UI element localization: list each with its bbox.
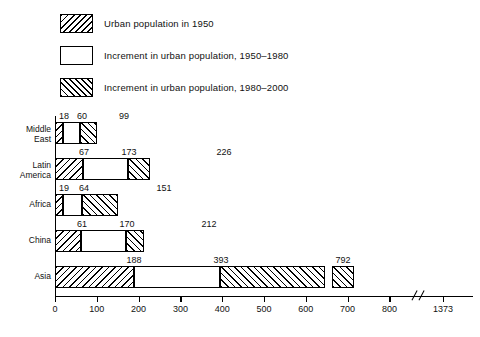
x-axis-tick (306, 296, 307, 302)
bar-row-china: China 61 170 212 (55, 230, 475, 252)
bar-row-label: Asia (5, 271, 51, 281)
x-axis-break-icon (410, 290, 434, 304)
x-axis-tick-label: 1373 (433, 304, 453, 314)
bar-segment-increment-1980-2000 (220, 266, 325, 288)
x-axis-tick-label: 100 (89, 304, 104, 314)
bar-segment-increment-1950-1980 (83, 158, 128, 180)
chart-figure: Urban population in 1950 Increment in ur… (0, 0, 480, 337)
bar-row-label: Africa (5, 199, 51, 209)
x-axis-tick-label: 300 (173, 304, 188, 314)
bar-segment-increment-1950-1980 (81, 230, 127, 252)
bar-row-asia: Asia 188 393 792 (55, 266, 475, 288)
x-axis-tick-label: 500 (256, 304, 271, 314)
bar-value-label: 61 (77, 219, 87, 229)
bar-value-label: 151 (156, 183, 171, 193)
bar-segment-urban-1950 (55, 122, 63, 144)
bar-segment-increment-1950-1980 (63, 122, 81, 144)
bar-segment-increment-1980-2000 (80, 122, 96, 144)
bar-value-label: 18 (59, 111, 69, 121)
x-axis-tick (180, 296, 181, 302)
bar-value-label: 67 (79, 147, 89, 157)
bar-segment-increment-1950-1980 (134, 266, 220, 288)
bar-row-label: China (5, 235, 51, 245)
bar-row-label: Latin America (5, 160, 51, 180)
bar-value-label: 64 (79, 183, 89, 193)
bar-segment-urban-1950 (55, 158, 83, 180)
x-axis-tick-label: 700 (340, 304, 355, 314)
bar-value-label: 188 (126, 255, 141, 265)
x-axis-tick-label: 800 (382, 304, 397, 314)
bar-segment-increment-1980-2000 (82, 194, 119, 216)
x-axis-tick (348, 296, 349, 302)
bar-row-middle-east: Middle East 18 60 99 (55, 122, 475, 144)
plot-area: Middle East 18 60 99 Latin America 67 17… (0, 0, 480, 337)
bar-value-label: 99 (119, 111, 129, 121)
x-axis-tick (139, 296, 140, 302)
x-axis-tick (55, 296, 56, 302)
bar-segment-increment-1980-2000 (128, 158, 150, 180)
bar-value-label: 393 (213, 255, 228, 265)
bar-row-label: Middle East (5, 124, 51, 144)
bar-row-latin-america: Latin America 67 173 226 (55, 158, 475, 180)
x-axis-tick (97, 296, 98, 302)
x-axis-tick (264, 296, 265, 302)
bar-segment-urban-1950 (55, 194, 63, 216)
bar-value-label: 170 (119, 219, 134, 229)
bar-value-label: 212 (201, 219, 216, 229)
x-axis-tick (222, 296, 223, 302)
bar-segment-urban-1950 (55, 266, 134, 288)
bar-value-label: 173 (121, 147, 136, 157)
x-axis-tick-label: 600 (298, 304, 313, 314)
bar-value-label: 792 (335, 255, 350, 265)
bar-segment-increment-1950-1980 (63, 194, 82, 216)
x-axis-tick-label: 400 (215, 304, 230, 314)
bar-value-label: 60 (77, 111, 87, 121)
x-axis-tick (443, 296, 444, 302)
x-axis-tick-label: 200 (131, 304, 146, 314)
bar-segment-increment-1980-2000 (126, 230, 144, 252)
bar-row-africa: Africa 19 64 151 (55, 194, 475, 216)
bar-value-label: 226 (216, 147, 231, 157)
bar-value-label: 19 (59, 183, 69, 193)
x-axis-tick (389, 296, 390, 302)
x-axis-tick-label: 0 (52, 304, 57, 314)
bar-segment-urban-1950 (55, 230, 81, 252)
bar-segment-increment-1980-2000-post-break (332, 266, 354, 288)
